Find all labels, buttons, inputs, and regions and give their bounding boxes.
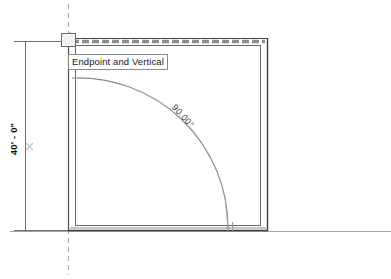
angle-text-container[interactable]: 90.00° [152,92,214,140]
wall-top-selected[interactable] [68,39,268,46]
dimension-text-container[interactable]: 40' - 0" [4,108,22,170]
dimension-string-vertical[interactable] [14,41,70,231]
angle-value-label: 90.00° [170,102,196,129]
snap-marker-box[interactable] [61,33,76,47]
dimension-value-label: 40' - 0" [8,123,19,156]
drawing-canvas[interactable]: Endpoint and Vertical 40' - 0" 90.00° [0,0,391,279]
snap-tooltip: Endpoint and Vertical [68,54,168,70]
dimension-grip-handle[interactable] [26,143,33,150]
